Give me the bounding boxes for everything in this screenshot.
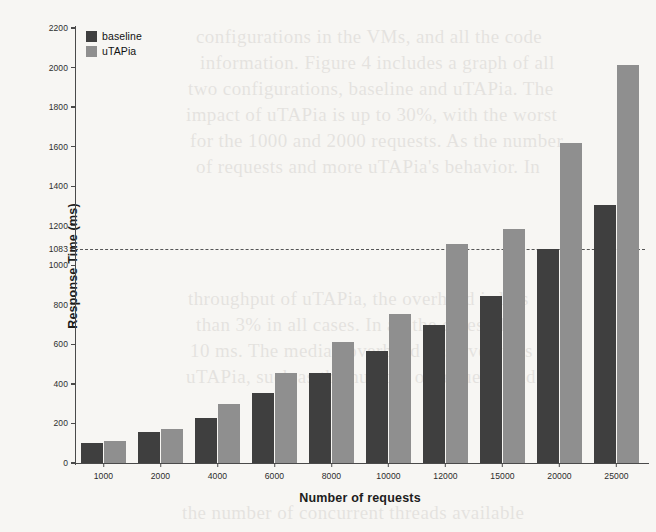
y-tick-400: 400	[54, 379, 75, 389]
x-tick-label: 20000	[547, 471, 571, 481]
bar-baseline-2000	[138, 432, 161, 463]
bar-baseline-12000	[423, 325, 446, 463]
bar-baseline-4000	[195, 418, 218, 463]
x-tick-mark	[160, 463, 161, 467]
y-tick-label: 1000	[49, 260, 71, 270]
y-tick-1200: 1200	[49, 221, 75, 231]
bar-baseline-8000	[309, 373, 332, 463]
bar-uTAPia-8000	[332, 342, 355, 463]
x-tick-8000: 8000	[322, 463, 342, 481]
legend-swatch-icon	[86, 46, 97, 57]
chart-figure: Response Time (ms) 020040060080010001083…	[0, 0, 656, 532]
y-tick-600: 600	[54, 339, 75, 349]
legend-item-uTAPia: uTAPia	[86, 45, 142, 57]
legend-item-baseline: baseline	[86, 30, 142, 42]
x-tick-label: 8000	[322, 471, 342, 481]
bar-uTAPia-20000	[560, 143, 583, 463]
x-tick-4000: 4000	[208, 463, 228, 481]
x-tick-12000: 12000	[433, 463, 457, 481]
y-tick-1800: 1800	[49, 102, 75, 112]
x-axis-ticks: 1000200040006000800010000120001500020000…	[0, 463, 656, 493]
y-tick-1083: 1083	[49, 244, 75, 254]
bar-baseline-10000	[366, 351, 389, 463]
y-tick-label: 1083	[49, 244, 71, 254]
bar-uTAPia-4000	[218, 404, 241, 463]
y-tick-1000: 1000	[49, 260, 75, 270]
y-tick-2200: 2200	[49, 23, 75, 33]
y-tick-2000: 2000	[49, 63, 75, 73]
bar-uTAPia-25000	[617, 65, 640, 463]
x-tick-label: 10000	[376, 471, 400, 481]
y-tick-1600: 1600	[49, 142, 75, 152]
bar-baseline-1000	[81, 443, 104, 463]
x-tick-25000: 25000	[604, 463, 628, 481]
x-tick-15000: 15000	[490, 463, 514, 481]
plot-area	[75, 28, 645, 463]
y-tick-label: 1400	[49, 181, 71, 191]
x-tick-2000: 2000	[151, 463, 171, 481]
x-tick-mark	[388, 463, 389, 467]
y-axis-ticks: 0200400600800100010831200140016001800200…	[0, 0, 75, 532]
x-tick-label: 12000	[433, 471, 457, 481]
y-tick-label: 2200	[49, 23, 71, 33]
x-tick-label: 2000	[151, 471, 171, 481]
legend-label: baseline	[102, 30, 142, 42]
y-tick-800: 800	[54, 300, 75, 310]
x-tick-1000: 1000	[94, 463, 114, 481]
x-tick-label: 25000	[604, 471, 628, 481]
bar-baseline-6000	[252, 393, 275, 463]
y-tick-1400: 1400	[49, 181, 75, 191]
legend-swatch-icon	[86, 31, 97, 42]
y-tick-label: 1600	[49, 142, 71, 152]
x-tick-mark	[445, 463, 446, 467]
bar-uTAPia-15000	[503, 229, 526, 463]
y-tick-label: 200	[54, 418, 71, 428]
x-tick-label: 1000	[94, 471, 114, 481]
bar-baseline-25000	[594, 205, 617, 463]
x-tick-mark	[331, 463, 332, 467]
x-tick-label: 4000	[208, 471, 228, 481]
legend-label: uTAPia	[102, 45, 136, 57]
bar-baseline-15000	[480, 296, 503, 463]
bar-uTAPia-2000	[161, 429, 184, 463]
chart-legend: baselineuTAPia	[86, 30, 142, 57]
bar-baseline-20000	[537, 249, 560, 463]
x-tick-mark	[274, 463, 275, 467]
y-tick-label: 800	[54, 300, 71, 310]
x-tick-10000: 10000	[376, 463, 400, 481]
y-tick-label: 600	[54, 339, 71, 349]
y-tick-label: 2000	[49, 63, 71, 73]
bar-uTAPia-10000	[389, 314, 412, 463]
x-tick-label: 6000	[265, 471, 285, 481]
x-tick-mark	[559, 463, 560, 467]
x-tick-6000: 6000	[265, 463, 285, 481]
x-tick-20000: 20000	[547, 463, 571, 481]
x-tick-label: 15000	[490, 471, 514, 481]
y-tick-label: 1200	[49, 221, 71, 231]
y-tick-label: 1800	[49, 102, 71, 112]
x-tick-mark	[103, 463, 104, 467]
bar-uTAPia-1000	[104, 441, 127, 463]
x-tick-mark	[616, 463, 617, 467]
bar-uTAPia-6000	[275, 373, 298, 463]
x-tick-mark	[217, 463, 218, 467]
y-tick-label: 400	[54, 379, 71, 389]
x-axis-label: Number of requests	[75, 491, 645, 505]
bar-uTAPia-12000	[446, 244, 469, 463]
x-tick-mark	[502, 463, 503, 467]
y-tick-200: 200	[54, 418, 75, 428]
